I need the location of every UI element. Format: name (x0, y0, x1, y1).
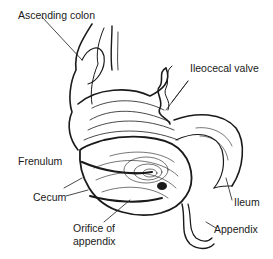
ileum-shape (174, 115, 242, 186)
label-ileum: Ileum (234, 196, 260, 208)
anatomy-diagram: Ascending colon Ileocecal valve Frenulum… (0, 0, 273, 259)
cecum-illustration (0, 0, 273, 259)
label-orifice-line1: Orifice of (73, 222, 115, 234)
label-cecum: Cecum (33, 191, 66, 203)
label-orifice-line2: appendix (73, 235, 116, 247)
label-appendix: Appendix (214, 223, 258, 235)
label-ileocecal-valve: Ileocecal valve (190, 62, 259, 74)
label-frenulum: Frenulum (18, 155, 62, 167)
label-ascending-colon: Ascending colon (18, 9, 95, 21)
ascending-colon-shape (69, 24, 92, 150)
orifice-shape (157, 182, 167, 190)
appendix-shape (182, 204, 214, 249)
